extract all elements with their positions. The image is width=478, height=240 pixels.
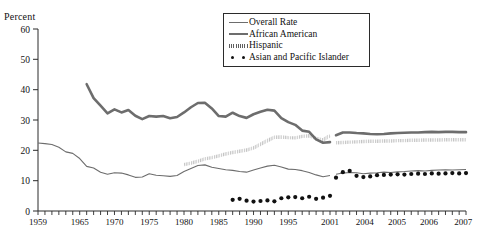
x-tick-1970: 1970 <box>105 217 124 227</box>
data-point-asian-pacific-islander <box>423 172 427 176</box>
series-line-african-american-post-break <box>336 132 466 135</box>
legend-swatch-thin-line-icon <box>227 22 249 23</box>
data-point-asian-pacific-islander <box>251 200 255 204</box>
x-tick-labels: 1959196519701975198019851990199520012004… <box>29 217 473 227</box>
series-line-hispanic <box>184 135 330 164</box>
data-point-asian-pacific-islander <box>286 195 290 199</box>
data-point-asian-pacific-islander <box>300 196 304 200</box>
legend-label-asian-and-pacific-islander: Asian and Pacific Islander <box>249 52 349 64</box>
data-point-asian-pacific-islander <box>328 194 332 198</box>
data-point-asian-pacific-islander <box>450 171 454 175</box>
legend-swatch-hatched-line-icon <box>227 44 249 48</box>
series-line-overall-rate <box>38 143 330 177</box>
data-point-asian-pacific-islander <box>395 172 399 176</box>
chart-legend: Overall Rate African American Hispanic A… <box>223 13 370 67</box>
data-point-asian-pacific-islander <box>293 195 297 199</box>
data-point-asian-pacific-islander <box>334 176 338 180</box>
series-markers-asian-pacific-islander <box>231 169 469 204</box>
data-point-asian-pacific-islander <box>238 197 242 201</box>
x-tick-2004: 2004 <box>356 217 375 227</box>
series-line-african-american <box>87 84 330 143</box>
data-point-asian-pacific-islander <box>265 198 269 202</box>
data-point-asian-pacific-islander <box>464 171 468 175</box>
legend-swatch-thick-line-icon <box>227 33 249 35</box>
data-point-asian-pacific-islander <box>272 199 276 203</box>
data-point-asian-pacific-islander <box>416 172 420 176</box>
data-point-asian-pacific-islander <box>321 196 325 200</box>
y-tick-10: 10 <box>21 176 31 186</box>
data-point-asian-pacific-islander <box>231 198 235 202</box>
legend-label-african-american: African American <box>249 29 317 41</box>
x-tick-2001: 2001 <box>321 217 339 227</box>
series-line-hispanic-post-break <box>336 140 466 143</box>
y-tick-0: 0 <box>25 207 30 217</box>
x-tick-1965: 1965 <box>71 217 90 227</box>
x-tick-1959: 1959 <box>29 217 48 227</box>
y-axis: 60 50 40 30 20 10 0 <box>21 25 39 217</box>
x-tick-2007: 2007 <box>454 217 473 227</box>
data-point-asian-pacific-islander <box>314 197 318 201</box>
data-point-asian-pacific-islander <box>430 171 434 175</box>
x-tick-2005: 2005 <box>388 217 407 227</box>
data-point-asian-pacific-islander <box>244 199 248 203</box>
data-point-asian-pacific-islander <box>354 174 358 178</box>
data-point-asian-pacific-islander <box>348 169 352 173</box>
y-tick-60: 60 <box>21 25 31 35</box>
legend-label-overall-rate: Overall Rate <box>249 17 297 29</box>
data-point-asian-pacific-islander <box>307 195 311 199</box>
legend-item-overall-rate: Overall Rate <box>227 17 365 29</box>
legend-item-african-american: African American <box>227 29 365 41</box>
y-tick-40: 40 <box>21 85 31 95</box>
legend-label-hispanic: Hispanic <box>249 40 283 52</box>
data-point-asian-pacific-islander <box>368 174 372 178</box>
series-hispanic-hatch-group <box>184 135 466 164</box>
data-point-asian-pacific-islander <box>409 172 413 176</box>
data-point-asian-pacific-islander <box>341 170 345 174</box>
data-point-asian-pacific-islander <box>382 173 386 177</box>
y-tick-30: 30 <box>21 116 31 126</box>
y-tick-20: 20 <box>21 146 31 156</box>
y-ticks <box>33 29 38 211</box>
data-point-asian-pacific-islander <box>457 171 461 175</box>
x-ticks <box>38 211 466 215</box>
x-tick-1975: 1975 <box>140 217 159 227</box>
data-point-asian-pacific-islander <box>389 173 393 177</box>
y-tick-50: 50 <box>21 55 31 65</box>
legend-item-hispanic: Hispanic <box>227 40 365 52</box>
data-point-asian-pacific-islander <box>375 173 379 177</box>
x-tick-1980: 1980 <box>175 217 194 227</box>
x-tick-1985: 1985 <box>210 217 229 227</box>
data-point-asian-pacific-islander <box>361 175 365 179</box>
x-axis: 1959196519701975198019851990199520012004… <box>29 211 473 227</box>
chart-root: Percent <box>0 0 478 240</box>
data-point-asian-pacific-islander <box>279 196 283 200</box>
x-tick-1995: 1995 <box>279 217 298 227</box>
legend-swatch-dots-icon <box>227 56 249 59</box>
x-tick-1990: 1990 <box>245 217 264 227</box>
data-point-asian-pacific-islander <box>443 171 447 175</box>
data-point-asian-pacific-islander <box>258 199 262 203</box>
x-tick-2006: 2006 <box>420 217 439 227</box>
series-layer <box>38 84 468 203</box>
data-point-asian-pacific-islander <box>402 173 406 177</box>
data-point-asian-pacific-islander <box>437 172 441 176</box>
legend-item-asian-and-pacific-islander: Asian and Pacific Islander <box>227 52 365 64</box>
